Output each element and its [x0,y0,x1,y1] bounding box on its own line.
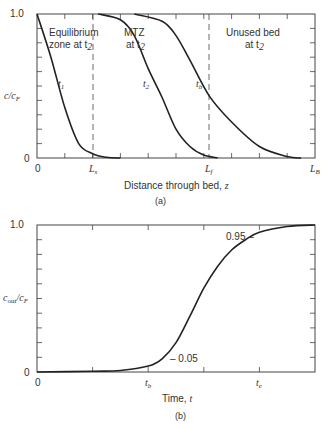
chart-b: 1.0 0 0 cout/cF 0.95 – – 0.05 tb te Time… [3,219,315,421]
y-bottom-label-a: 0 [24,153,30,164]
region-mtz-line1: MTZ [124,27,145,38]
curve-label-t2: t2 [143,78,150,91]
breakthrough-curve [37,225,315,372]
y-top-label-b: 1.0 [10,219,24,230]
x-label-ls: Ls [88,163,98,176]
caption-b: (b) [175,411,186,421]
ticks-b [37,225,315,372]
figure: 1.0 0 0 c/cF Equilibrium zone at t2 MTZ … [0,0,327,424]
region-unused-line1: Unused bed [226,27,280,38]
x-axis-title-a: Distance through bed, z [124,180,229,191]
x-label-lf: Lf [204,163,214,176]
x-zero-label-b: 0 [35,377,41,388]
region-mtz-line2: at t2 [126,39,145,52]
y-axis-label-b: cout/cF [3,292,29,305]
chart-a: 1.0 0 0 c/cF Equilibrium zone at t2 MTZ … [4,8,321,206]
y-axis-label-a: c/cF [4,90,21,103]
x-label-lb: LB [309,163,321,176]
y-bottom-label-b: 0 [24,367,30,378]
region-equilibrium-line1: Equilibrium [49,27,98,38]
caption-a: (a) [155,196,166,206]
region-unused-line2: at t2 [245,39,264,52]
x-axis-title-b: Time, t [162,393,192,404]
x-label-te: te [256,377,262,390]
annotation-095: 0.95 – [226,231,254,242]
plot-frame-b [37,225,315,372]
y-top-label-a: 1.0 [10,8,24,19]
x-label-tb: tb [145,377,152,390]
annotation-005: – 0.05 [170,353,198,364]
region-equilibrium-line2: zone at t2 [49,39,92,52]
x-zero-label-a: 0 [35,163,41,174]
